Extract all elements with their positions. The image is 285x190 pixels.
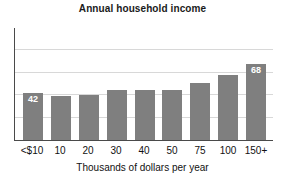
x-tick-label: <$10	[18, 144, 46, 158]
bar-value-label: 42	[23, 94, 43, 105]
chart-title: Annual household income	[0, 3, 285, 14]
bar[interactable]	[135, 90, 155, 140]
x-tick-label: 75	[186, 144, 214, 158]
x-tick-label: 30	[102, 144, 130, 158]
x-tick-label: 150+	[242, 144, 270, 158]
x-tick-label: 20	[74, 144, 102, 158]
bars-group: 4268	[15, 28, 273, 140]
x-tick-label: 40	[130, 144, 158, 158]
x-tick-label: 100	[214, 144, 242, 158]
bar-slot	[214, 28, 242, 140]
bar[interactable]	[107, 90, 127, 140]
x-axis-tick-labels: <$10102030405075100150+	[14, 144, 273, 158]
bar[interactable]	[51, 96, 71, 140]
x-axis-title: Thousands of dollars per year	[0, 162, 285, 173]
bar[interactable]: 68	[246, 64, 266, 140]
bar[interactable]: 42	[23, 93, 43, 140]
bar-slot: 42	[19, 28, 47, 140]
bar-slot	[158, 28, 186, 140]
bar-slot	[75, 28, 103, 140]
bar-slot	[47, 28, 75, 140]
bar[interactable]	[79, 95, 99, 140]
x-tick-label: 10	[46, 144, 74, 158]
bar-chart-figure: Annual household income 4268 <$101020304…	[0, 0, 285, 190]
bar-value-label: 68	[246, 65, 266, 76]
bar-slot	[131, 28, 159, 140]
plot-area: 4268	[14, 28, 273, 141]
bar[interactable]	[190, 83, 210, 140]
bar-slot	[186, 28, 214, 140]
bar[interactable]	[162, 90, 182, 140]
bar-slot: 68	[242, 28, 270, 140]
x-tick-label: 50	[158, 144, 186, 158]
bar-slot	[103, 28, 131, 140]
bar[interactable]	[218, 75, 238, 140]
